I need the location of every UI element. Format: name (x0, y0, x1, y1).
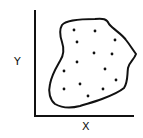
data-point (76, 41, 79, 44)
data-point (63, 88, 66, 91)
blob-region (49, 19, 136, 108)
data-point (94, 30, 97, 33)
diagram-canvas (0, 0, 143, 138)
data-point (104, 68, 107, 71)
data-point (76, 61, 79, 64)
data-point (115, 79, 118, 82)
data-point (63, 70, 66, 73)
data-point (79, 83, 82, 86)
data-point (87, 95, 90, 98)
y-axis-label: Y (14, 56, 21, 67)
data-point (111, 53, 114, 56)
scatter-points (63, 29, 118, 98)
data-point (93, 52, 96, 55)
data-point (73, 29, 76, 32)
data-point (102, 88, 105, 91)
x-axis-label: X (82, 121, 90, 132)
data-point (114, 39, 117, 42)
